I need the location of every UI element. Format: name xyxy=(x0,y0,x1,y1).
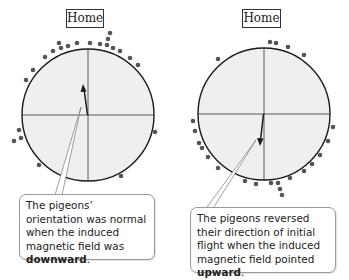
left-callout-text: The pigeons’ orientation was normal when… xyxy=(26,199,146,252)
left-callout-punct: . xyxy=(87,253,90,265)
right-callout-punct: . xyxy=(241,266,244,278)
right-callout-emphasis: upward xyxy=(197,266,241,278)
right-callout: The pigeons reversed their direction of … xyxy=(190,207,336,273)
right-home-label: Home xyxy=(242,9,281,28)
left-orientation-circle xyxy=(22,49,154,181)
left-callout: The pigeons’ orientation was normal when… xyxy=(19,194,155,260)
left-callout-emphasis: downward xyxy=(26,253,87,265)
left-home-label: Home xyxy=(66,9,104,28)
right-callout-text: The pigeons reversed their direction of … xyxy=(197,212,320,265)
right-orientation-circle xyxy=(198,48,330,180)
